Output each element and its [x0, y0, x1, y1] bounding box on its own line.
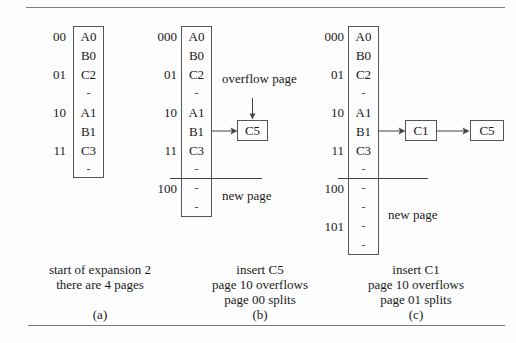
bottom-horizontal-rule	[28, 325, 505, 326]
bucket-label-b-3: 11	[142, 141, 177, 160]
slot-b-6: C3	[182, 141, 211, 160]
slot-b-3: -	[182, 84, 211, 103]
new-page-label-c: new page	[388, 207, 458, 222]
caption-c-line-2: page 10 overflows	[316, 277, 516, 292]
bucket-label-a-2: 10	[36, 103, 66, 122]
bucket-label-c-3: 11	[309, 141, 344, 160]
caption-c-line-3: page 01 splits	[316, 292, 516, 307]
slot-a-6: C3	[74, 141, 103, 160]
new-page-divider-c	[338, 178, 428, 179]
page-box-c: A0 B0 C2 - A1 B1 C3 - - - - -	[348, 26, 379, 255]
slot-c-7: -	[349, 160, 378, 179]
bucket-label-b-1: 01	[142, 65, 177, 84]
sublabel-c: (c)	[316, 307, 516, 323]
slot-c-4: A1	[349, 103, 378, 122]
slot-a-1: B0	[74, 46, 103, 65]
bucket-label-b-0: 000	[142, 27, 177, 46]
slot-c-8: -	[349, 179, 378, 198]
bucket-to-overflow-arrow-c	[379, 124, 407, 138]
slot-a-7: -	[74, 160, 103, 179]
slot-a-4: A1	[74, 103, 103, 122]
slot-c-5: B1	[349, 122, 378, 141]
bucket-label-c-4: 100	[309, 179, 344, 198]
bucket-label-a-1: 01	[36, 65, 66, 84]
slot-b-5: B1	[182, 122, 211, 141]
slot-b-2: C2	[182, 65, 211, 84]
bucket-label-c-2: 10	[309, 103, 344, 122]
slot-a-3: -	[74, 84, 103, 103]
overflow-box-c-0: C1	[405, 120, 437, 141]
slot-c-10: -	[349, 217, 378, 236]
page-box-b: A0 B0 C2 - A1 B1 C3 - - -	[181, 26, 212, 217]
overflow-box-b-0: C5	[237, 120, 268, 141]
slot-c-9: -	[349, 198, 378, 217]
slot-b-4: A1	[182, 103, 211, 122]
bucket-to-overflow-arrow-b	[211, 124, 239, 138]
caption-c: insert C1 page 10 overflows page 01 spli…	[316, 262, 516, 307]
slot-c-11: -	[349, 236, 378, 255]
page-box-a: A0 B0 C2 - A1 B1 C3 -	[73, 26, 104, 178]
linear-hashing-figure: 00 01 10 11 A0 B0 C2 - A1 B1 C3 - start …	[0, 0, 516, 343]
bucket-label-a-3: 11	[36, 141, 66, 160]
caption-c-line-1: insert C1	[316, 262, 516, 277]
overflow-box-c-1: C5	[470, 120, 504, 141]
slot-b-8: -	[182, 179, 211, 198]
slot-b-9: -	[182, 198, 211, 217]
slot-a-5: B1	[74, 122, 103, 141]
slot-c-2: C2	[349, 65, 378, 84]
new-page-label-b: new page	[222, 188, 292, 203]
slot-b-7: -	[182, 160, 211, 179]
slot-c-6: C3	[349, 141, 378, 160]
bucket-label-b-2: 10	[142, 103, 177, 122]
new-page-divider-b	[170, 178, 262, 179]
bucket-label-c-0: 000	[309, 27, 344, 46]
bucket-label-b-4: 100	[142, 179, 177, 198]
slot-b-1: B0	[182, 46, 211, 65]
bucket-label-c-5: 101	[309, 217, 344, 236]
slot-b-0: A0	[182, 27, 211, 46]
overflow-annotation-line-1: overflow	[222, 71, 269, 86]
overflow-annotation-line-2: page	[272, 71, 297, 86]
overflow-page-annotation-b: overflow page	[222, 71, 282, 86]
bucket-label-a-0: 00	[36, 27, 66, 46]
overflow-to-overflow-arrow-c	[437, 124, 471, 138]
slot-a-2: C2	[74, 65, 103, 84]
slot-c-1: B0	[349, 46, 378, 65]
overflow-arrow-down-b	[240, 98, 266, 122]
top-horizontal-rule	[26, 7, 505, 8]
slot-c-3: -	[349, 84, 378, 103]
bucket-label-c-1: 01	[309, 65, 344, 84]
slot-a-0: A0	[74, 27, 103, 46]
slot-c-0: A0	[349, 27, 378, 46]
